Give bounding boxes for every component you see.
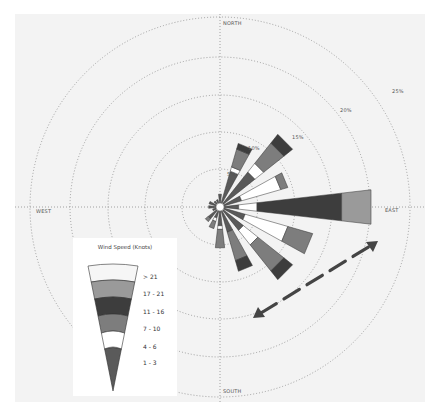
legend-swatch-0	[88, 264, 138, 282]
petal-E-bin0	[224, 205, 239, 209]
legend-item-1-3: 1 - 3	[143, 359, 157, 366]
label-east: EAST	[385, 207, 399, 213]
petal-S-bin2	[215, 229, 224, 247]
petal-ESE-bin2	[282, 226, 313, 253]
petal-E-bin3	[257, 193, 342, 221]
legend-cone	[73, 238, 177, 396]
legend-item-7-10: 7 - 10	[143, 325, 160, 332]
legend-swatch-3	[98, 314, 128, 333]
label-north: NORTH	[223, 20, 242, 26]
petal-N-bin0	[219, 194, 222, 203]
petal-S-bin0	[218, 211, 222, 226]
wind-petals	[205, 134, 371, 279]
ring-label-10: 10%	[248, 145, 260, 151]
legend-item-17-21: 17 - 21	[143, 290, 164, 297]
ring-label-5: 5%	[227, 171, 235, 177]
legend-swatch-4	[101, 331, 124, 349]
legend-swatch-2	[95, 297, 132, 316]
legend-item-11-16: 11 - 16	[143, 308, 164, 315]
ring-labels: 5% 10% 15% 20% 25%	[227, 88, 404, 177]
label-west: WEST	[36, 208, 52, 214]
petal-W-bin0	[209, 206, 216, 209]
wind-rose-panel: 5% 10% 15% 20% 25% NORTH EAST SOUTH WEST…	[15, 14, 425, 402]
ring-label-15: 15%	[292, 134, 304, 140]
ring-label-25: 25%	[392, 88, 404, 94]
legend-item-4-6: 4 - 6	[143, 343, 157, 350]
legend-swatch-5	[105, 348, 122, 392]
legend: Wind Speed (Knots) > 21 17 - 21 11 - 16 …	[73, 238, 177, 396]
petal-E-bin1	[239, 203, 257, 211]
center-hub	[216, 203, 224, 211]
legend-item-gt21: > 21	[143, 273, 158, 280]
label-south: SOUTH	[223, 388, 242, 394]
petal-S-bin1	[217, 226, 222, 230]
petal-E-bin4	[342, 190, 371, 224]
legend-swatch-1	[91, 280, 135, 299]
ring-label-20: 20%	[340, 107, 352, 113]
petal-SSW-bin2	[209, 220, 216, 228]
